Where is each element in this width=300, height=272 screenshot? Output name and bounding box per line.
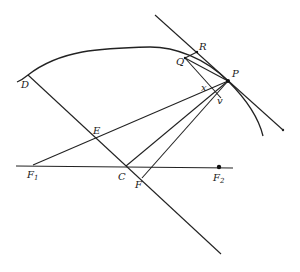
tangent-end-icon	[282, 129, 284, 131]
point-F2	[217, 165, 221, 169]
line-PC	[126, 81, 228, 166]
point-P	[226, 79, 230, 83]
label-F1: F1	[26, 169, 38, 182]
label-x: x	[201, 82, 207, 93]
ellipse-arc	[17, 47, 263, 136]
ellipse-diagram: D E F1 C F F2 Q R P x v	[0, 0, 300, 272]
line-PF	[142, 81, 228, 178]
tangent-line	[155, 15, 283, 130]
label-C: C	[118, 171, 126, 182]
label-R: R	[198, 41, 207, 52]
label-E: E	[92, 125, 101, 136]
line-PF1	[33, 81, 228, 165]
label-F: F	[134, 179, 143, 190]
line-DC	[28, 75, 221, 254]
label-P: P	[231, 68, 239, 79]
label-v: v	[217, 95, 223, 106]
point-R	[196, 51, 198, 53]
label-D: D	[20, 79, 29, 90]
label-F2: F2	[212, 172, 225, 185]
major-axis-line	[16, 166, 233, 168]
label-Q: Q	[176, 56, 184, 67]
